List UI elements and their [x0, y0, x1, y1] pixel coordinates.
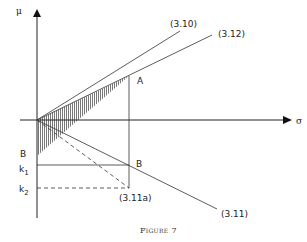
- point-A-label: A: [137, 76, 144, 86]
- figure-caption: FIGURE7: [140, 226, 177, 235]
- k2-label: k2: [19, 184, 29, 197]
- y-axis-label: μ: [16, 6, 22, 16]
- line-3-11a: [37, 120, 129, 188]
- x-axis-label: σ: [296, 116, 302, 126]
- eq-3-11a-label: (3.11a): [119, 193, 152, 203]
- figure-diagram: μ σ A B B k1 k2 (3.10) (3.12) (3.11) (3.…: [0, 0, 307, 242]
- y-axis-arrow-icon: [33, 9, 41, 17]
- line-3-10: [37, 31, 180, 120]
- x-axis-arrow-icon: [283, 116, 292, 124]
- eq-3-12-label: (3.12): [218, 29, 245, 39]
- point-B-right-label: B: [136, 159, 142, 169]
- point-B-left-label: B: [20, 149, 26, 159]
- k1-label: k1: [19, 164, 29, 177]
- line-3-12: [37, 35, 212, 120]
- hatched-region: [37, 76, 129, 156]
- eq-3-11-label: (3.11): [221, 209, 248, 219]
- eq-3-10-label: (3.10): [170, 19, 197, 29]
